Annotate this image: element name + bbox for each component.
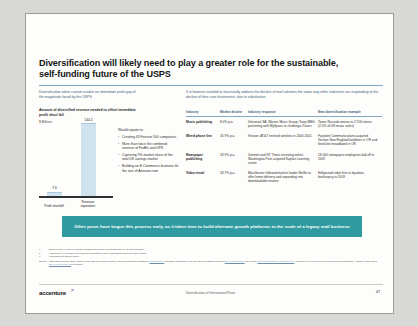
- source-link-4[interactable]: http://www.example-2: [49, 263, 71, 265]
- cell-industry-response: Blockbuster followed market leader Netfl…: [248, 168, 318, 186]
- chart-x-axis: [39, 196, 113, 197]
- cell-diversification-example: 18,000 newspaper employees laid off in 2…: [318, 150, 382, 168]
- list-item: More than twice the combined revenue of …: [118, 142, 180, 151]
- page-title-line-1: Diversification will likely need to play…: [39, 58, 383, 69]
- industry-table-container: Industry Market decline Industry respons…: [186, 110, 382, 186]
- bar-value-profit-shortfall: 7.6: [44, 186, 66, 190]
- cell-market-decline: 18.7% p.a.: [220, 168, 248, 186]
- cell-industry: Wired phone line: [186, 131, 220, 149]
- footnote-text: Based on July 1, 2009-11 $2.8B in Losses…: [49, 248, 383, 251]
- list-item: Creating 43 Fortune 500 companies: [118, 135, 180, 139]
- source-link-3[interactable]: http://www.example-link-source.com: [257, 260, 294, 262]
- source-segment-3: 08.04.2009: [245, 260, 257, 262]
- footnote-marker: 1: [39, 248, 49, 251]
- list-item: Building an E-Commerce business 6x the s…: [118, 164, 180, 173]
- equivalence-bullet-list: Would equate to: Creating 43 Fortune 500…: [118, 128, 180, 175]
- list-item: Capturing 9% market share of the total U…: [118, 153, 180, 162]
- footnote-marker: 2: [39, 252, 49, 255]
- source-row: Source: USPS 2010 annual report; Gartner…: [39, 260, 383, 266]
- slide-canvas: Diversification will likely need to play…: [25, 13, 394, 314]
- page-title: Diversification will likely need to play…: [39, 58, 383, 81]
- cell-industry-response: Universal SA, Warner Music Group, Sony B…: [248, 117, 318, 132]
- footnote-row: 1 Based on July 1, 2009-11 $2.8B in Loss…: [39, 248, 383, 251]
- footnote-row: 2 Assuming 5.4% average net profit from …: [39, 252, 383, 255]
- callout-banner: Other posts have begun this process earl…: [62, 216, 362, 237]
- footnote-text: Assuming 5.4% average net profit from in…: [49, 252, 383, 255]
- footnotes: 1 Based on July 1, 2009-11 $2.8B in Loss…: [39, 248, 383, 267]
- cell-industry: Music publishing: [186, 117, 220, 132]
- cell-industry-response: Verizon, AT&T entered wireless in 2000-2…: [248, 131, 318, 149]
- cell-diversification-example: Tower Records moves to 2,700 stores (2.5…: [318, 117, 382, 132]
- footer-divider: [39, 284, 383, 285]
- column-header-industry-response: Industry response: [248, 110, 318, 117]
- cell-industry: Video rental: [186, 168, 220, 186]
- column-header-market-decline: Market decline: [220, 110, 248, 117]
- table-row: Video rental 18.7% p.a. Blockbuster foll…: [186, 168, 382, 186]
- cell-market-decline: 8.4% p.a.: [220, 117, 248, 132]
- source-link-2[interactable]: http://www.example: [225, 260, 245, 262]
- cell-industry-response: Gannett and NY Times investing online; W…: [248, 150, 318, 168]
- bar-category-profit-shortfall: Profit shortfall: [41, 204, 67, 208]
- source-segment-2: ; with Blue and Bloom; Link "The Recent …: [164, 260, 225, 262]
- bar-category-revenue-equivalent: Revenue equivalent: [75, 200, 101, 208]
- lead-paragraph-left: Diversification alone cannot resolve an …: [39, 90, 139, 99]
- source-label: Source:: [39, 260, 49, 263]
- callout-text: Other posts have begun this process earl…: [74, 224, 350, 230]
- lead-paragraph-right: It is however needed to structurally add…: [186, 90, 382, 99]
- bar-revenue-equivalent: [81, 123, 96, 196]
- industry-table: Industry Market decline Industry respons…: [186, 110, 382, 186]
- footer-deck-title: Diversification of International Posts: [26, 291, 394, 295]
- cell-market-decline: 16.9% p.a.: [220, 131, 248, 149]
- column-header-diversification-example: New diversification example: [318, 110, 382, 117]
- source-segment-5: 07.12.2009: [72, 263, 84, 265]
- column-header-industry: Industry: [186, 110, 220, 117]
- cell-diversification-example: Fairpoint Communications acquired Verizo…: [318, 131, 382, 149]
- source-text: USPS 2010 annual report; Gartner; Univer…: [49, 260, 383, 266]
- source-link-1[interactable]: globe 38-2009: [149, 260, 164, 262]
- title-divider: [39, 85, 383, 86]
- table-row: Newspaper publishing 18.9% p.a. Gannett …: [186, 150, 382, 168]
- cell-industry: Newspaper publishing: [186, 150, 220, 168]
- table-header-row: Industry Market decline Industry respons…: [186, 110, 382, 117]
- cell-diversification-example: Hollywood video first to liquidate, bank…: [318, 168, 382, 186]
- bar-chart: 144.2 7.6 Profit shortfall Revenue equiv…: [39, 126, 113, 208]
- table-row: Wired phone line 16.9% p.a. Verizon, AT&…: [186, 131, 382, 149]
- table-row: Music publishing 8.4% p.a. Universal SA,…: [186, 117, 382, 132]
- source-segment-1: USPS 2010 annual report; Gartner; Univer…: [49, 260, 149, 262]
- cell-market-decline: 18.9% p.a.: [220, 150, 248, 168]
- bar-value-revenue-equivalent: 144.2: [78, 118, 100, 122]
- footnote-marker: 3: [39, 255, 49, 258]
- chart-title: Amount of diversified revenue needed to …: [39, 108, 143, 117]
- page-number: 47: [376, 290, 380, 294]
- footnote-text: Forecasted for USPS in 2011: [49, 255, 383, 258]
- page-title-line-2: self-funding future of the USPS: [39, 69, 383, 80]
- footnote-row: 3 Forecasted for USPS in 2011: [39, 255, 383, 258]
- source-segment-4: ; Forrester, 24F-10 rpm all for mail car…: [294, 260, 377, 262]
- bullet-list-intro: Would equate to:: [118, 128, 180, 132]
- chart-unit-label: $ Billions: [39, 120, 52, 124]
